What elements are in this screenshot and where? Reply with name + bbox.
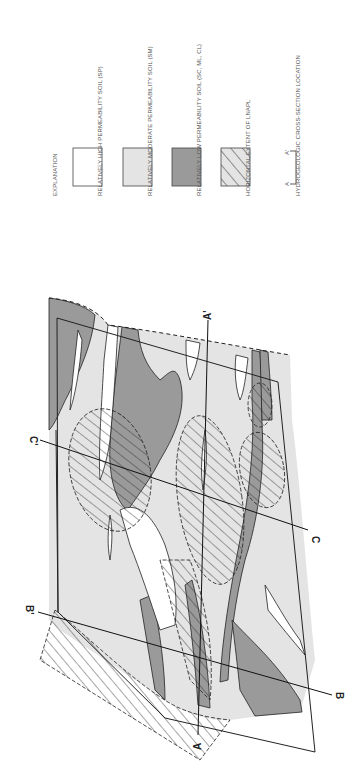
legend-item-moderate-permeability: RELATIVELY MODERATE PERMEABILITY SOIL (S… [123, 46, 153, 196]
legend: EXPLANATION RELATIVELY HIGH PERMEABILITY… [52, 44, 301, 196]
legend-label-cross-section: HYDROGEOLOGIC CROSS-SECTION LOCATION [295, 55, 301, 196]
soil-map: A' A B' B C' C [24, 298, 345, 760]
legend-label-lnapl-extent: HORIZONTAL EXTENT OF LNAPL [245, 99, 251, 196]
bracket-label-end: A' [284, 150, 290, 155]
legend-label-moderate-permeability: RELATIVELY MODERATE PERMEABILITY SOIL (S… [147, 46, 153, 196]
legend-label-high-permeability: RELATIVELY HIGH PERMEABILITY SOIL (SP) [97, 66, 103, 196]
legend-label-low-permeability: RELATIVELY LOW PERMEABILITY SOIL (SC, ML… [196, 44, 202, 196]
legend-item-cross-section: A A' HYDROGEOLOGIC CROSS-SECTION LOCATIO… [284, 55, 301, 196]
bracket-label-start: A [284, 182, 290, 186]
section-label-a: A [192, 743, 203, 750]
section-label-a-prime: A' [202, 310, 213, 320]
legend-title: EXPLANATION [52, 153, 58, 196]
lnapl-extent [248, 383, 272, 427]
section-label-c-prime: C' [28, 436, 39, 446]
legend-item-lnapl-extent: HORIZONTAL EXTENT OF LNAPL [221, 99, 251, 196]
legend-item-low-permeability: RELATIVELY LOW PERMEABILITY SOIL (SC, ML… [172, 44, 202, 196]
section-label-b: B [334, 692, 345, 699]
legend-item-high-permeability: RELATIVELY HIGH PERMEABILITY SOIL (SP) [73, 66, 103, 196]
section-label-b-prime: B' [24, 605, 35, 615]
section-label-c: C [310, 536, 321, 543]
hydrogeologic-map-figure: EXPLANATION RELATIVELY HIGH PERMEABILITY… [0, 0, 354, 764]
